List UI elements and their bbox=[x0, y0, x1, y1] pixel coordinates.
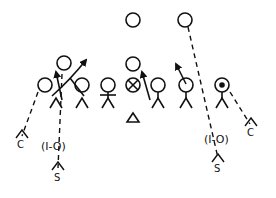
dash-right-corner bbox=[230, 92, 250, 124]
offense-back-left bbox=[126, 13, 140, 27]
formation-diagram: C S C S (I-O) (I-O) bbox=[0, 0, 276, 198]
offense-back-right bbox=[178, 13, 192, 27]
technique-left-label: (I-O) bbox=[41, 140, 66, 153]
defender-stances bbox=[50, 92, 228, 108]
offense-lineman-5 bbox=[179, 78, 193, 92]
corner-right-label: C bbox=[247, 127, 254, 138]
corner-left-label: C bbox=[17, 139, 24, 150]
safety-left-label: S bbox=[54, 172, 60, 183]
offense-lineman-4 bbox=[151, 78, 165, 92]
safety-right-label: S bbox=[214, 163, 220, 174]
offense-lineman-1 bbox=[38, 78, 52, 92]
dash-left-corner bbox=[22, 92, 38, 136]
offense-center bbox=[126, 78, 140, 92]
route-center-arrow bbox=[142, 72, 150, 100]
offense-qb bbox=[126, 57, 140, 71]
offense-lineman-3 bbox=[101, 78, 115, 92]
offense-lineman-2 bbox=[75, 78, 89, 92]
technique-right-label: (I-O) bbox=[204, 133, 229, 146]
offense-wing-left bbox=[57, 56, 71, 70]
defense-nose-triangle bbox=[127, 113, 139, 122]
